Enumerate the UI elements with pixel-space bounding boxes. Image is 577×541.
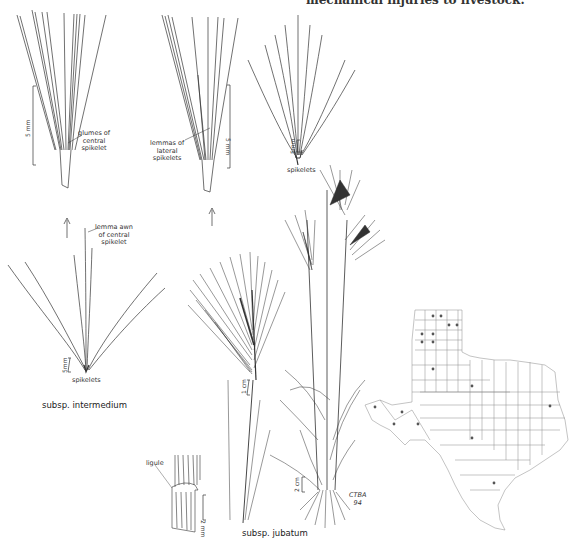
ligule-scale: 2 mm — [200, 520, 207, 537]
caption-jubatum: subsp. jubatum — [242, 528, 308, 538]
jubatum-spikelets-label: spikelets — [287, 167, 316, 175]
lemmas-scale-label: 5 mm — [225, 138, 232, 155]
inflorescence-drawing — [188, 252, 285, 523]
texas-map — [365, 310, 568, 530]
distribution-points — [374, 315, 552, 485]
glumes-label: glumes of central spikelet — [78, 130, 110, 153]
intermedium-scale-label: 5mm — [61, 357, 68, 373]
lemmas-label: lemmas of lateral spikelets — [150, 140, 184, 163]
habit-scale: 2 cm — [293, 477, 300, 492]
botanical-illustration — [0, 0, 577, 541]
lemma-awn-label: lemma awn of central spikelet — [95, 224, 133, 247]
ligule-label: ligule — [146, 460, 164, 468]
glumes-scale-label: 5 mm — [24, 120, 31, 137]
lemmas-detail-drawing — [162, 15, 238, 192]
intermedium-spikelets-drawing — [8, 228, 165, 370]
jubatum-spikelets-drawing — [248, 15, 355, 155]
habit-drawing — [270, 165, 385, 528]
inflorescence-scale: 1 cm — [240, 379, 247, 394]
artist-signature: CTBA 94 — [349, 492, 366, 507]
caption-intermedium: subsp. intermedium — [42, 400, 127, 410]
jubatum-spikelets-scale: 5mm — [289, 138, 296, 154]
glumes-detail-drawing — [17, 10, 106, 188]
intermedium-spikelets-label: spikelets — [72, 377, 101, 385]
